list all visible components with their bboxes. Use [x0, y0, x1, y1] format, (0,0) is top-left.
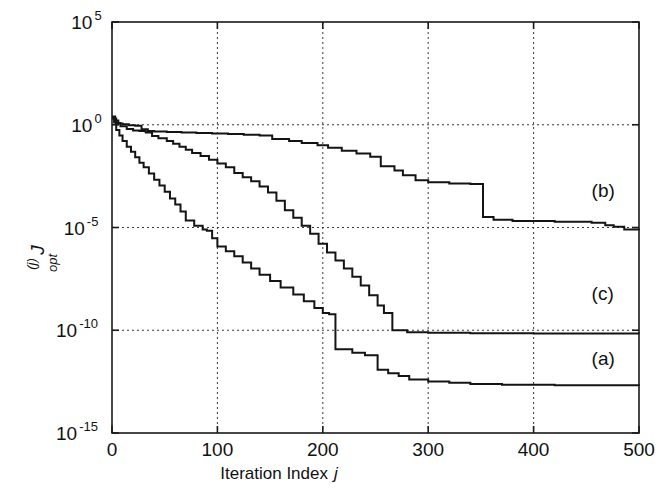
y-tick-label-exponent: 5 — [94, 8, 101, 23]
x-tick-label: 300 — [412, 439, 444, 460]
curve-label-a: (a) — [592, 348, 615, 369]
x-tick-label: 200 — [307, 439, 339, 460]
y-tick-label-exponent: -15 — [79, 419, 98, 434]
y-tick-label-exponent: -5 — [87, 214, 99, 229]
y-axis-label-superscript: (j) — [24, 258, 39, 270]
x-tick-label: 400 — [518, 439, 550, 460]
x-axis-label-text: Iteration Index — [220, 464, 328, 483]
y-tick-label-base: 10 — [71, 12, 92, 33]
figure-container: 10510010-510-1010-15 0100200300400500 (b… — [0, 0, 668, 504]
x-tick-label: 100 — [202, 439, 234, 460]
curve-label-b: (b) — [592, 180, 615, 201]
x-tick-label: 0 — [107, 439, 118, 460]
y-tick-label-base: 10 — [56, 423, 77, 444]
x-tick-label: 500 — [623, 439, 655, 460]
y-tick-label-exponent: 0 — [94, 111, 101, 126]
y-tick-label-base: 10 — [56, 320, 77, 341]
y-tick-label-base: 10 — [71, 115, 92, 136]
log-convergence-chart: 10510010-510-1010-15 0100200300400500 (b… — [0, 0, 668, 504]
curve-label-c: (c) — [592, 283, 614, 304]
x-axis-label: Iteration Index j — [220, 464, 339, 483]
y-tick-label-base: 10 — [64, 218, 85, 239]
y-axis-label-subscript: opt — [45, 253, 60, 272]
y-tick-label-exponent: -10 — [79, 316, 98, 331]
